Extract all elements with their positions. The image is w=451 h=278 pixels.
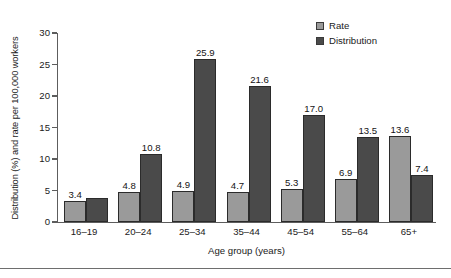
bar-value-label: 13.6 bbox=[380, 125, 420, 135]
x-axis-line bbox=[57, 222, 436, 223]
bar-group: 5.317.0 bbox=[281, 33, 325, 222]
bar-distribution[interactable] bbox=[86, 198, 108, 222]
y-tick-label: 30 bbox=[10, 28, 50, 38]
legend-label: Rate bbox=[329, 19, 349, 32]
legend-swatch-icon bbox=[316, 37, 324, 45]
bar-value-label: 25.9 bbox=[185, 48, 225, 58]
y-tick-label: 25 bbox=[10, 60, 50, 70]
bar-rate[interactable] bbox=[389, 136, 411, 222]
bar-rate[interactable] bbox=[227, 192, 249, 222]
bar-rate[interactable] bbox=[335, 179, 357, 222]
x-axis-title: Age group (years) bbox=[57, 245, 436, 256]
bar-rate[interactable] bbox=[118, 192, 140, 222]
bar-group: 4.925.9 bbox=[172, 33, 216, 222]
y-tick-label: 15 bbox=[10, 123, 50, 133]
legend-swatch-icon bbox=[316, 22, 324, 30]
bar-distribution[interactable] bbox=[194, 59, 216, 222]
bar-rate[interactable] bbox=[64, 201, 86, 222]
y-tick-label: 5 bbox=[10, 186, 50, 196]
bar-value-label: 21.6 bbox=[240, 75, 280, 85]
bar-distribution[interactable] bbox=[140, 154, 162, 222]
bar-distribution[interactable] bbox=[249, 86, 271, 222]
bar-group: 3.4 bbox=[64, 33, 108, 222]
bar-distribution[interactable] bbox=[411, 175, 433, 222]
plot-area: 3.44.810.84.925.94.721.65.317.06.913.513… bbox=[57, 33, 436, 222]
bar-distribution[interactable] bbox=[357, 137, 379, 222]
y-tick-label: 0 bbox=[10, 217, 50, 227]
bar-rate[interactable] bbox=[172, 191, 194, 222]
chart-legend: RateDistribution bbox=[316, 19, 436, 49]
footer-divider bbox=[0, 268, 451, 269]
bar-group: 13.67.4 bbox=[389, 33, 433, 222]
bar-rate[interactable] bbox=[281, 189, 303, 222]
legend-item[interactable]: Distribution bbox=[316, 34, 436, 47]
x-tick-label: 65+ bbox=[374, 226, 444, 237]
legend-item[interactable]: Rate bbox=[316, 19, 436, 32]
bar-group: 4.721.6 bbox=[227, 33, 271, 222]
bar-group: 4.810.8 bbox=[118, 33, 162, 222]
y-axis-ticks: 051015202530 bbox=[8, 33, 50, 223]
bar-value-label: 7.4 bbox=[402, 164, 442, 174]
bar-value-label: 17.0 bbox=[294, 104, 334, 114]
y-tick-label: 10 bbox=[10, 154, 50, 164]
bar-distribution[interactable] bbox=[303, 115, 325, 222]
bar-value-label: 10.8 bbox=[131, 143, 171, 153]
bar-chart-figure: Distribution (%) and rate per 100,000 wo… bbox=[0, 0, 451, 278]
y-tick-label: 20 bbox=[10, 91, 50, 101]
bar-group: 6.913.5 bbox=[335, 33, 379, 222]
legend-label: Distribution bbox=[329, 34, 377, 47]
